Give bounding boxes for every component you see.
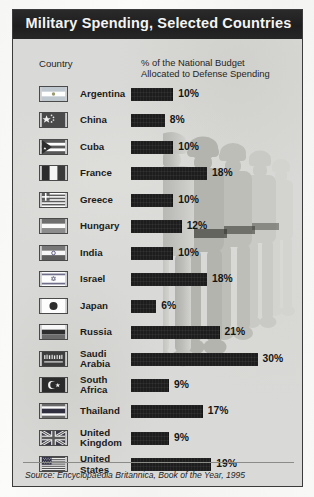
source-citation: Source: Encyclopaedia Britannica, Book o… (25, 470, 245, 480)
bar-value-label: 10% (178, 141, 199, 152)
bar-value-label: 10% (178, 247, 199, 258)
country-label-line: France (80, 168, 112, 178)
country-label: Greece (80, 195, 113, 205)
flag-cuba-icon (39, 139, 68, 155)
flag-argentina-icon (39, 86, 68, 102)
country-label-line: Israel (80, 274, 105, 284)
flag-greece-icon (39, 192, 68, 208)
footer-divider (23, 462, 294, 463)
bar-value-label: 8% (170, 114, 185, 125)
bar (131, 220, 182, 233)
flag-china-icon (39, 112, 68, 128)
country-label-line: Cuba (80, 142, 104, 152)
bar (131, 405, 203, 418)
bar (131, 247, 173, 260)
flag-france-icon (39, 165, 68, 181)
bar (131, 432, 169, 445)
bar-value-label: 6% (161, 300, 176, 311)
country-label: Argentina (80, 89, 125, 99)
bar (131, 167, 207, 180)
country-label: India (80, 248, 103, 258)
country-label: Hungary (80, 221, 119, 231)
country-label: Thailand (80, 406, 120, 416)
country-label: Cuba (80, 142, 104, 152)
flag-thailand-icon (39, 403, 68, 419)
bar-value-label: 10% (178, 88, 199, 99)
country-label-line: Thailand (80, 406, 120, 416)
page-title: Military Spending, Selected Countries (13, 15, 303, 31)
bar-value-label: 18% (212, 273, 233, 284)
country-label-line: Russia (80, 327, 112, 337)
bar (131, 300, 156, 313)
bar (131, 88, 173, 101)
bar-value-label: 17% (208, 405, 229, 416)
bar-value-label: 30% (263, 353, 284, 364)
table-row[interactable]: Japan6% (13, 295, 303, 319)
country-label-line: India (80, 248, 103, 258)
table-row[interactable]: Argentina10% (13, 83, 303, 107)
country-label-line: Hungary (80, 221, 119, 231)
bar-value-label: 10% (178, 194, 199, 205)
table-row[interactable]: Israel18% (13, 268, 303, 292)
bar (131, 194, 173, 207)
table-row[interactable]: Russia21% (13, 321, 303, 345)
country-label: France (80, 168, 112, 178)
chart-title-bar: Military Spending, Selected Countries (13, 10, 303, 39)
bar (131, 326, 220, 339)
country-label-line: Greece (80, 195, 113, 205)
country-label: SaudiArabia (80, 349, 110, 370)
flag-india-icon (39, 245, 68, 261)
chart-rows: Argentina10%China8%Cuba10%France18%Greec… (13, 10, 303, 487)
bar-value-label: 12% (187, 220, 208, 231)
table-row[interactable]: Hungary12% (13, 215, 303, 239)
bar (131, 141, 173, 154)
table-row[interactable]: France18% (13, 162, 303, 186)
country-label-line: Argentina (80, 89, 125, 99)
flag-united-kingdom-icon (39, 430, 68, 446)
flag-israel-icon (39, 271, 68, 287)
country-label-line: Arabia (80, 359, 110, 369)
country-label: SouthAfrica (80, 375, 107, 396)
country-label: Russia (80, 327, 112, 337)
country-label-line: Africa (80, 385, 107, 395)
table-row[interactable]: Thailand17% (13, 400, 303, 424)
country-label: Japan (80, 301, 108, 311)
bar (131, 379, 169, 392)
country-label-line: Japan (80, 301, 108, 311)
flag-japan-icon (39, 298, 68, 314)
bar (131, 273, 207, 286)
scanned-page-background: Military Spending, Selected Countries Co… (0, 0, 314, 497)
bar-value-label: 9% (174, 379, 189, 390)
flag-hungary-icon (39, 218, 68, 234)
country-label: China (80, 115, 107, 125)
flag-saudi-arabia-icon (39, 351, 68, 367)
country-label: Israel (80, 274, 105, 284)
chart-panel: Military Spending, Selected Countries Co… (12, 9, 303, 487)
bar (131, 114, 165, 127)
table-row[interactable]: SouthAfrica9% (13, 374, 303, 398)
table-row[interactable]: SaudiArabia30% (13, 348, 303, 372)
bar (131, 353, 258, 366)
bar-value-label: 21% (225, 326, 246, 337)
table-row[interactable]: China8% (13, 109, 303, 133)
bar-value-label: 18% (212, 167, 233, 178)
flag-crescent-star-icon (39, 377, 68, 393)
country-label-line: China (80, 115, 107, 125)
bar-value-label: 19% (216, 458, 237, 469)
table-row[interactable]: India10% (13, 242, 303, 266)
table-row[interactable]: UnitedKingdom9% (13, 427, 303, 451)
table-row[interactable]: Cuba10% (13, 136, 303, 160)
bar-value-label: 9% (174, 432, 189, 443)
country-label-line: Kingdom (80, 438, 122, 448)
flag-russia-icon (39, 324, 68, 340)
country-label: UnitedKingdom (80, 428, 122, 449)
table-row[interactable]: Greece10% (13, 189, 303, 213)
